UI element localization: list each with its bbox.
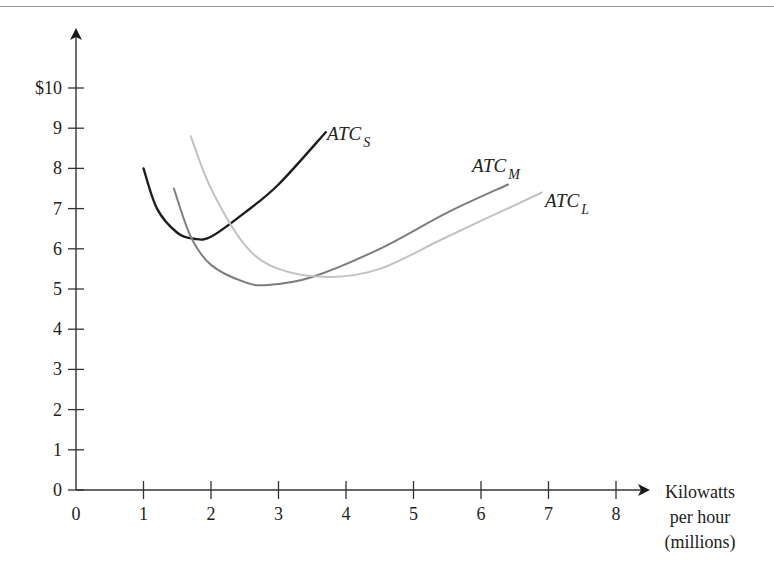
x-axis-title-line: (millions) bbox=[665, 532, 736, 553]
x-tick-label: 5 bbox=[409, 504, 418, 524]
x-tick-label: 8 bbox=[612, 504, 621, 524]
x-tick-label: 2 bbox=[207, 504, 216, 524]
y-tick-label: 4 bbox=[53, 319, 62, 339]
y-tick-label: 7 bbox=[53, 199, 62, 219]
y-tick-label: 0 bbox=[53, 480, 62, 500]
y-tick-label: 3 bbox=[53, 359, 62, 379]
curve-labels: ATCSATCMATCL bbox=[325, 123, 589, 217]
x-ticks: 012345678 bbox=[72, 481, 621, 524]
y-tick-label: 9 bbox=[53, 118, 62, 138]
label-atc-l: ATCL bbox=[543, 190, 589, 217]
x-tick-label: 3 bbox=[274, 504, 283, 524]
curve-atc-m bbox=[174, 184, 508, 285]
axes bbox=[76, 30, 648, 490]
y-tick-label: 8 bbox=[53, 158, 62, 178]
x-tick-label: 1 bbox=[139, 504, 148, 524]
y-tick-label: $10 bbox=[35, 78, 62, 98]
x-tick-label: 0 bbox=[72, 504, 81, 524]
x-tick-label: 7 bbox=[544, 504, 553, 524]
label-atc-s: ATCS bbox=[325, 123, 370, 150]
x-axis-title: Kilowattsper hour(millions) bbox=[665, 482, 736, 553]
x-tick-label: 6 bbox=[477, 504, 486, 524]
y-tick-label: 1 bbox=[53, 440, 62, 460]
x-tick-label: 4 bbox=[342, 504, 351, 524]
y-tick-label: 6 bbox=[53, 239, 62, 259]
x-axis-title-line: Kilowatts bbox=[665, 482, 735, 502]
y-tick-label: 5 bbox=[53, 279, 62, 299]
label-atc-m: ATCM bbox=[470, 155, 521, 182]
atc-chart: 012345678 0123456789$10 ATCSATCMATCL Kil… bbox=[0, 0, 774, 584]
y-tick-label: 2 bbox=[53, 400, 62, 420]
curve-atc-s bbox=[144, 132, 326, 239]
x-axis-title-line: per hour bbox=[670, 507, 730, 527]
